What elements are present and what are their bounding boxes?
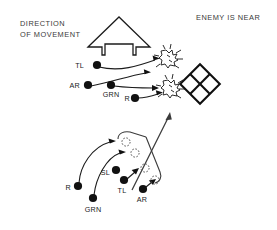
unit-label-lower-r: R: [66, 183, 71, 192]
unit-label-lower-grn: GRN: [85, 205, 102, 214]
unit-dot-ar[interactable]: [84, 81, 92, 89]
unit-label-r: R: [125, 94, 130, 103]
unit-dot-lower-r[interactable]: [74, 182, 82, 190]
unit-label-lower-sl: SL: [101, 168, 110, 177]
unit-dot-grn[interactable]: [107, 81, 115, 89]
enemy-status-label: ENEMY IS NEAR: [196, 13, 260, 22]
unit-label-lower-ar: AR: [137, 195, 147, 204]
figure-canvas: DIRECTION OF MOVEMENT ENEMY IS NEAR: [0, 0, 277, 230]
tactical-movement-diagram: DIRECTION OF MOVEMENT ENEMY IS NEAR: [0, 0, 277, 230]
unit-label-ar: AR: [70, 81, 80, 90]
direction-label-line2: OF MOVEMENT: [20, 30, 81, 39]
unit-label-lower-tl: TL: [118, 186, 127, 195]
unit-dot-tl[interactable]: [93, 61, 101, 69]
unit-dot-lower-sl[interactable]: [112, 166, 120, 174]
unit-label-grn: GRN: [103, 90, 120, 99]
unit-dot-lower-tl[interactable]: [120, 176, 128, 184]
unit-dot-lower-ar[interactable]: [139, 185, 147, 193]
unit-label-tl: TL: [75, 61, 84, 70]
direction-label-line1: DIRECTION: [20, 19, 65, 28]
unit-dot-r[interactable]: [131, 94, 139, 102]
unit-dot-lower-grn[interactable]: [89, 194, 97, 202]
